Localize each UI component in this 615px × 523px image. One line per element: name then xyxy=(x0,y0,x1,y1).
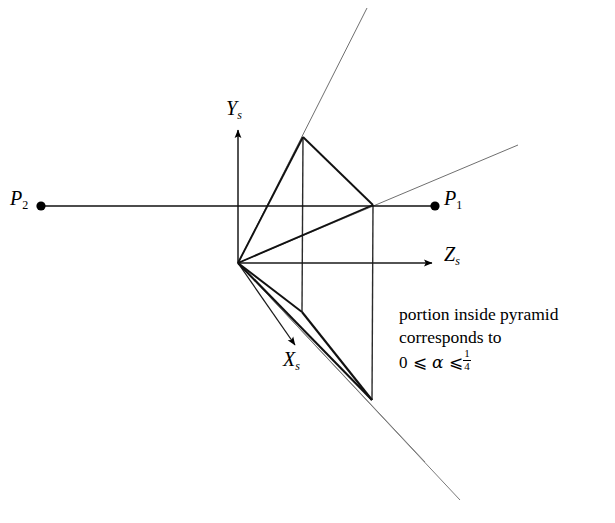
edge-apex-bottom-left xyxy=(238,263,302,312)
edge-apex-right xyxy=(238,205,373,263)
y-axis-label: Ys xyxy=(226,98,242,118)
pyramid-diagram xyxy=(0,0,615,523)
annotation-line-2: corresponds to xyxy=(399,327,502,347)
thin-construction-rays xyxy=(238,8,518,500)
annotation-line-1: portion inside pyramid xyxy=(399,304,558,324)
z-axis-label: Zs xyxy=(444,244,460,264)
math-relation-1: ⩽ xyxy=(413,352,428,371)
lower-ray-long xyxy=(238,263,460,500)
p2-label: P2 xyxy=(10,188,28,208)
x-axis-label: Xs xyxy=(283,349,300,369)
edge-apex-top xyxy=(238,137,303,263)
math-variable-alpha: α xyxy=(432,351,444,371)
left-vertical-edge xyxy=(302,137,303,312)
fraction-numerator: 1 xyxy=(463,348,471,359)
edge-top-right xyxy=(303,137,373,205)
right-vertical-edge xyxy=(372,205,373,400)
p1-label: P1 xyxy=(444,188,462,208)
p1-point-dot xyxy=(430,201,439,210)
pyramid-cross-section-verticals xyxy=(302,137,373,400)
math-relation-2: ⩽ xyxy=(449,352,464,371)
edge-bottom xyxy=(302,312,372,400)
fraction-denominator: 4 xyxy=(463,360,471,372)
annotation-math-line: 0 ⩽ α ⩽14 xyxy=(399,350,558,374)
math-lower-bound: 0 xyxy=(399,352,408,371)
p2-point-dot xyxy=(36,201,45,210)
x-axis-line xyxy=(238,263,295,345)
annotation-text-block: portion inside pyramid corresponds to 0 … xyxy=(399,303,558,374)
math-fraction-one-quarter: 14 xyxy=(463,348,471,372)
edge-apex-bottom-right xyxy=(238,263,372,400)
pyramid-edges xyxy=(238,137,373,400)
